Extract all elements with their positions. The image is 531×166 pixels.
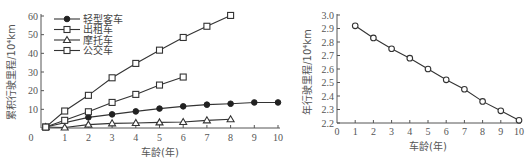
open-square-marker <box>85 92 91 98</box>
x-tick-label: 3 <box>389 126 394 137</box>
filled-circle-marker <box>228 101 234 107</box>
cumulative-mileage-plot: 102030405060012345678910车龄(年)累积行驶里程/10⁴k… <box>0 0 300 166</box>
x-tick-label: 5 <box>426 126 431 137</box>
open-square-marker <box>204 23 210 29</box>
y-tick-label: 2.3 <box>322 104 335 115</box>
x-tick-label: 8 <box>480 126 485 137</box>
legend: 轻型客车出租车摩托车公交车 <box>54 13 123 57</box>
filled-circle-marker <box>133 109 139 115</box>
y-axis-title: 年行驶里程/10⁴km <box>301 29 313 115</box>
annual-mileage-chart: 2.22.32.42.52.62.72.82.93.0012345678910车… <box>300 0 531 166</box>
open-square-marker <box>43 124 49 130</box>
x-tick-label: 10 <box>514 126 524 137</box>
open-circle-marker <box>389 46 395 52</box>
open-square-marker <box>157 47 163 53</box>
cumulative-mileage-chart: 102030405060012345678910车龄(年)累积行驶里程/10⁴k… <box>0 0 300 166</box>
y-tick-label: 20 <box>28 85 38 96</box>
x-tick-label: 0 <box>335 126 340 137</box>
filled-circle-marker <box>86 115 92 121</box>
x-tick-label: 6 <box>444 126 449 137</box>
open-circle-marker <box>443 77 449 83</box>
open-square-marker <box>180 74 186 80</box>
x-tick-label: 3 <box>110 132 115 143</box>
x-tick-label: 4 <box>133 132 138 143</box>
y-tick-label: 2.7 <box>322 50 335 61</box>
open-circle-marker <box>516 118 522 124</box>
y-tick-label: 40 <box>28 48 38 59</box>
series-line <box>355 26 519 121</box>
x-tick-label: 7 <box>462 126 467 137</box>
x-tick-label: 1 <box>62 132 67 143</box>
filled-circle-marker <box>204 102 210 108</box>
y-tick-label: 2.6 <box>322 64 335 75</box>
legend-label: 轻型客车 <box>83 13 123 25</box>
series-annual-mileage <box>352 23 521 123</box>
x-tick-label: 10 <box>273 132 283 143</box>
open-square-marker <box>180 34 186 40</box>
x-tick-label: 4 <box>407 126 412 137</box>
filled-circle-marker <box>252 100 258 106</box>
legend-label: 出租车 <box>83 23 113 35</box>
open-square-marker <box>157 82 163 88</box>
y-axis-title: 累积行驶里程/10⁴km <box>5 24 17 120</box>
origin-label: 0 <box>29 132 34 143</box>
x-tick-label: 6 <box>181 132 186 143</box>
open-square-marker <box>133 60 139 66</box>
y-tick-label: 2.4 <box>322 91 335 102</box>
x-tick-label: 9 <box>252 132 257 143</box>
x-tick-label: 7 <box>204 132 209 143</box>
y-tick-label: 10 <box>28 104 38 115</box>
open-circle-marker <box>371 35 377 41</box>
open-circle-marker <box>480 99 486 105</box>
legend-marker <box>64 16 70 22</box>
open-circle-marker <box>498 108 504 114</box>
x-tick-label: 2 <box>371 126 376 137</box>
y-tick-label: 50 <box>28 29 38 40</box>
open-circle-marker <box>462 86 468 92</box>
open-square-marker <box>228 12 234 18</box>
filled-circle-marker <box>275 100 281 106</box>
open-circle-marker <box>425 66 431 72</box>
open-square-marker <box>62 117 68 123</box>
open-square-marker <box>133 91 139 97</box>
open-circle-marker <box>352 23 358 29</box>
x-tick-label: 5 <box>157 132 162 143</box>
legend-marker <box>64 27 70 33</box>
legend-marker <box>64 48 70 54</box>
filled-circle-marker <box>157 106 163 112</box>
x-tick-label: 8 <box>228 132 233 143</box>
open-square-marker <box>62 108 68 114</box>
y-tick-label: 2.8 <box>322 37 335 48</box>
y-tick-label: 2.5 <box>322 77 335 88</box>
x-tick-label: 9 <box>498 126 503 137</box>
open-square-marker <box>109 99 115 105</box>
y-tick-label: 2.9 <box>322 23 335 34</box>
y-tick-label: 60 <box>28 11 38 22</box>
annual-mileage-plot: 2.22.32.42.52.62.72.82.93.0012345678910车… <box>300 0 531 166</box>
filled-circle-marker <box>180 104 186 110</box>
x-tick-label: 2 <box>86 132 91 143</box>
y-tick-label: 2.2 <box>322 118 335 129</box>
x-axis-title: 车龄(年) <box>141 146 179 158</box>
legend-label: 摩托车 <box>83 34 113 46</box>
x-tick-label: 1 <box>353 126 358 137</box>
legend-label: 公交车 <box>83 44 113 56</box>
y-tick-label: 30 <box>28 67 38 78</box>
x-axis-title: 车龄(年) <box>409 140 447 152</box>
y-tick-label: 3.0 <box>322 10 335 21</box>
open-circle-marker <box>407 55 413 61</box>
series-出租车 <box>43 74 186 130</box>
open-square-marker <box>109 75 115 81</box>
open-square-marker <box>85 109 91 115</box>
filled-circle-marker <box>109 112 115 118</box>
open-triangle-marker <box>227 116 234 122</box>
